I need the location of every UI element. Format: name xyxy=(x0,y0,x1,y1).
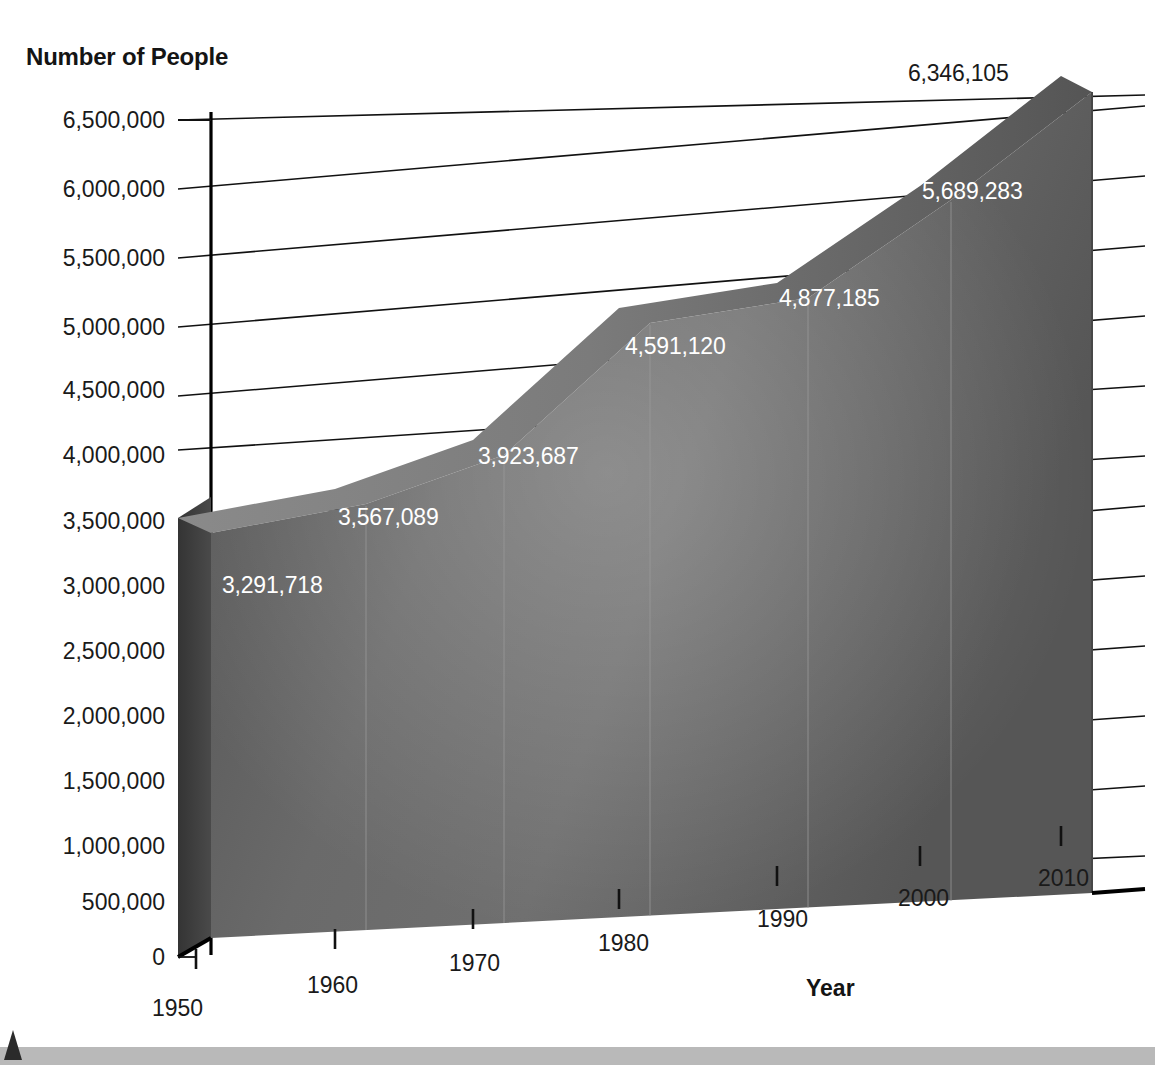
y-tick-label: 4,000,000 xyxy=(63,442,165,469)
y-tick-label: 0 xyxy=(152,944,165,971)
y-tick-label: 1,000,000 xyxy=(63,833,165,860)
y-tick-label: 1,500,000 xyxy=(63,768,165,795)
triangle-up-icon xyxy=(4,1030,22,1060)
area-side-face xyxy=(178,497,211,957)
data-label-1980: 4,591,120 xyxy=(625,333,726,360)
data-label-2000: 5,689,283 xyxy=(922,178,1023,205)
data-label-2010: 6,346,105 xyxy=(908,60,1009,87)
data-label-1950: 3,291,718 xyxy=(222,572,323,599)
x-tick-label-1950: 1950 xyxy=(152,995,203,1022)
x-tick-label-2000: 2000 xyxy=(898,885,949,912)
x-axis-baseline xyxy=(1092,889,1145,893)
x-tick-label-2010: 2010 xyxy=(1038,865,1089,892)
data-label-1960: 3,567,089 xyxy=(338,504,439,531)
footer-bar xyxy=(0,1047,1155,1065)
x-tick-label-1990: 1990 xyxy=(757,906,808,933)
y-tick-label: 6,000,000 xyxy=(63,176,165,203)
data-label-1970: 3,923,687 xyxy=(478,443,579,470)
y-tick-label: 6,500,000 xyxy=(63,107,165,134)
y-tick-label: 3,000,000 xyxy=(63,573,165,600)
chart-container: Number of People Year xyxy=(0,0,1155,1065)
y-tick-label: 2,000,000 xyxy=(63,703,165,730)
y-tick-label: 5,000,000 xyxy=(63,314,165,341)
x-tick-label-1970: 1970 xyxy=(449,950,500,977)
y-tick-label: 2,500,000 xyxy=(63,638,165,665)
x-tick-label-1960: 1960 xyxy=(307,972,358,999)
y-tick-label: 4,500,000 xyxy=(63,377,165,404)
plot-area xyxy=(0,0,1155,1065)
data-label-1990: 4,877,185 xyxy=(779,285,880,312)
y-tick-label: 3,500,000 xyxy=(63,508,165,535)
y-tick-label: 500,000 xyxy=(82,889,165,916)
x-tick-label-1980: 1980 xyxy=(598,930,649,957)
y-tick-label: 5,500,000 xyxy=(63,245,165,272)
